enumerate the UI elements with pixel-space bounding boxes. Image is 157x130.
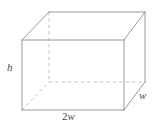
prism-drawing <box>0 0 157 130</box>
height-label: h <box>7 62 13 73</box>
height-label-text: h <box>7 61 13 73</box>
visible-edges-group <box>22 12 145 110</box>
edge-depth-top-left <box>22 12 49 40</box>
length-label: 2w <box>62 111 75 122</box>
width-label: w <box>139 90 146 101</box>
rectangular-prism-figure: h 2w w <box>0 0 157 130</box>
hidden-edge-bottom-left-diagonal <box>22 82 49 110</box>
hidden-edges-group <box>22 12 145 110</box>
edge-depth-top-right <box>124 12 145 40</box>
length-label-variable: w <box>68 110 75 122</box>
width-label-text: w <box>139 89 146 101</box>
